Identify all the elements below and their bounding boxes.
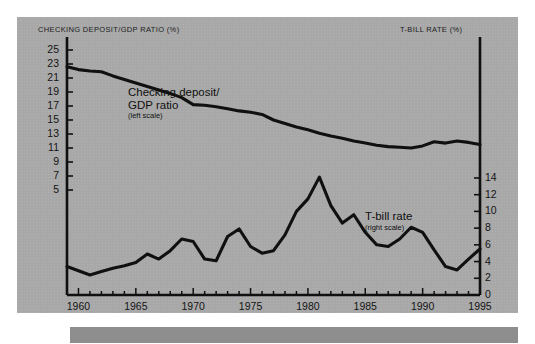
y-right-tick-label: 2: [485, 271, 511, 283]
y-right-tick-label: 12: [485, 188, 511, 200]
series-line: [67, 177, 480, 275]
chart-svg: [17, 17, 518, 313]
x-tick-label: 1990: [403, 300, 443, 312]
x-tick-label: 1975: [231, 300, 271, 312]
y-right-tick-label: 4: [485, 255, 511, 267]
caption-bar: [70, 327, 518, 343]
y-left-tick-label: 25: [33, 43, 59, 55]
y-left-tick-label: 23: [33, 57, 59, 69]
x-tick-label: 1980: [288, 300, 328, 312]
y-left-tick-label: 13: [33, 127, 59, 139]
y-right-tick-label: 0: [485, 288, 511, 300]
plot-area: CHECKING DEPOSIT/GDP RATIO (%) T-BILL RA…: [17, 17, 518, 313]
figure-root: CHECKING DEPOSIT/GDP RATIO (%) T-BILL RA…: [0, 0, 535, 344]
series-layer: [67, 67, 480, 275]
x-tick-label: 1985: [345, 300, 385, 312]
y-left-tick-label: 9: [33, 155, 59, 167]
y-left-tick-label: 5: [33, 183, 59, 195]
axes-layer: [67, 37, 480, 295]
y-left-tick-label: 15: [33, 113, 59, 125]
y-left-tick-label: 11: [33, 141, 59, 153]
y-right-tick-label: 6: [485, 238, 511, 250]
y-left-tick-label: 21: [33, 71, 59, 83]
x-tick-label: 1995: [460, 300, 500, 312]
x-tick-label: 1965: [116, 300, 156, 312]
y-left-tick-label: 7: [33, 169, 59, 181]
y-right-tick-label: 10: [485, 204, 511, 216]
y-left-tick-label: 17: [33, 99, 59, 111]
y-right-tick-label: 8: [485, 221, 511, 233]
x-tick-label: 1970: [173, 300, 213, 312]
x-tick-label: 1960: [58, 300, 98, 312]
series-line: [67, 67, 480, 148]
chart-panel: CHECKING DEPOSIT/GDP RATIO (%) T-BILL RA…: [17, 17, 518, 313]
y-left-tick-label: 19: [33, 85, 59, 97]
y-right-tick-label: 14: [485, 171, 511, 183]
